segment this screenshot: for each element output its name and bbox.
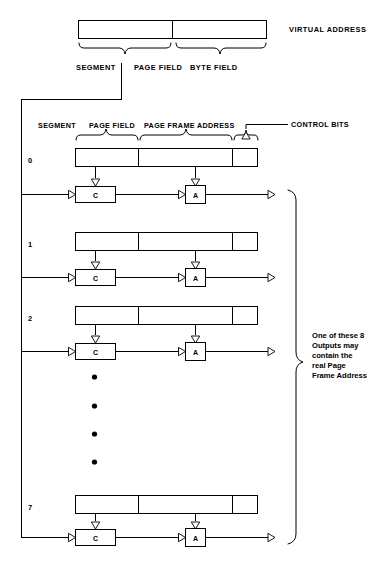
- diagram-text-layer: VIRTUAL ADDRESS SEGMENT PAGE FIELD BYTE …: [0, 0, 390, 566]
- va-field-label-segment: SEGMENT: [76, 63, 116, 72]
- row-index-label: 7: [28, 503, 32, 512]
- table-column-label-segment: SEGMENT: [38, 121, 76, 130]
- output-note-line: real Page: [312, 361, 346, 370]
- row-index-label: 1: [28, 240, 32, 249]
- row-index-label: 0: [28, 156, 32, 165]
- virtual-address-title: VIRTUAL ADDRESS: [289, 25, 366, 34]
- va-field-label-page-field: PAGE FIELD: [134, 63, 183, 72]
- compare-box-label: C: [93, 275, 98, 282]
- and-box-label: A: [193, 275, 198, 282]
- compare-box-label: C: [93, 192, 98, 199]
- row-index-label: 2: [28, 314, 32, 323]
- and-box-label: A: [193, 192, 198, 199]
- output-note-line: contain the: [312, 351, 353, 360]
- output-note-line: One of these 8: [312, 331, 364, 340]
- output-note-line: Outputs may: [312, 341, 359, 350]
- va-field-label-byte-field: BYTE FIELD: [190, 63, 238, 72]
- table-column-label-page-field: PAGE FIELD: [89, 121, 135, 130]
- diagram-canvas: VIRTUAL ADDRESS SEGMENT PAGE FIELD BYTE …: [0, 0, 390, 566]
- compare-box-label: C: [93, 535, 98, 542]
- and-box-label: A: [193, 535, 198, 542]
- table-callout-label-control-bits: CONTROL BITS: [291, 120, 349, 129]
- output-note-line: Frame Address: [312, 371, 367, 380]
- and-box-label: A: [193, 349, 198, 356]
- compare-box-label: C: [93, 349, 98, 356]
- table-column-label-page-frame-address: PAGE FRAME ADDRESS: [144, 121, 235, 130]
